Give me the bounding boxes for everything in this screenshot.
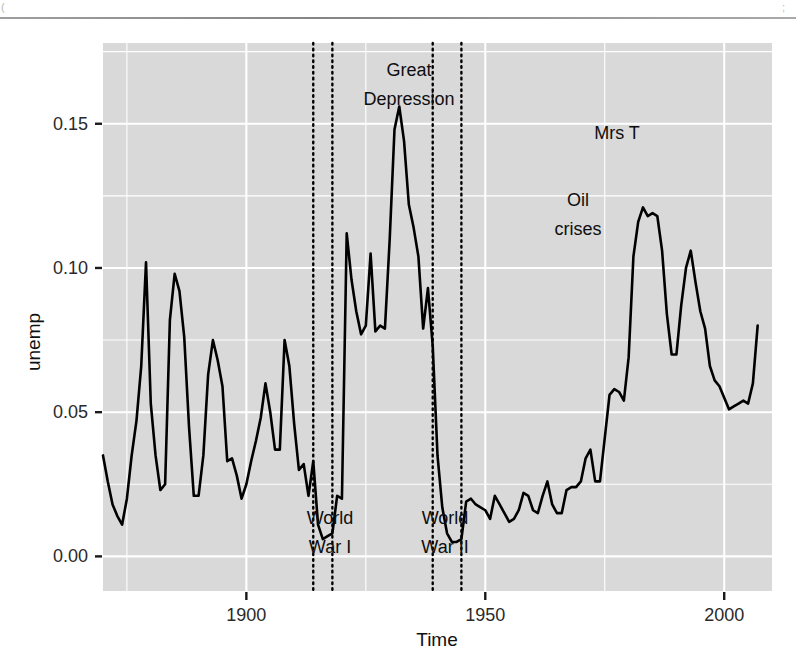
x-tick-label: 1900 — [226, 605, 266, 625]
x-tick-label: 1950 — [465, 605, 505, 625]
annotation-great-depression-line1: Great — [386, 60, 431, 80]
y-tick-label: 0.05 — [53, 402, 88, 422]
x-tick-label: 2000 — [704, 605, 744, 625]
x-axis-tick-marks — [246, 592, 724, 600]
annotation-world-war-1-line2: War I — [309, 537, 351, 557]
x-axis-tick-labels: 190019502000 — [226, 605, 744, 625]
y-tick-label: 0.10 — [53, 258, 88, 278]
y-tick-label: 0.15 — [53, 114, 88, 134]
annotation-world-war-2-line1: World — [422, 508, 469, 528]
y-axis-tick-marks — [95, 124, 102, 557]
annotation-world-war-1-line1: World — [307, 508, 354, 528]
annotation-great-depression-line2: Depression — [363, 89, 454, 109]
page-corner-mark-right: ; — [782, 0, 792, 14]
figure-page: ( ; 0.000.050.100.15 190019502000 unemp … — [0, 0, 796, 658]
page-top-rule — [0, 17, 796, 19]
unemployment-time-series-chart: 0.000.050.100.15 190019502000 unemp Time… — [0, 22, 796, 658]
annotation-oil-crises-line1: Oil — [567, 190, 589, 210]
annotation-world-war-2-line2: War II — [421, 537, 468, 557]
annotation-oil-crises-line2: crises — [554, 219, 601, 239]
annotation-mrs-t: Mrs T — [594, 123, 640, 143]
y-axis-title: unemp — [23, 313, 44, 371]
x-axis-title: Time — [416, 629, 458, 650]
page-corner-mark-left: ( — [1, 0, 11, 14]
y-tick-label: 0.00 — [53, 546, 88, 566]
y-axis-tick-labels: 0.000.050.100.15 — [53, 114, 88, 567]
